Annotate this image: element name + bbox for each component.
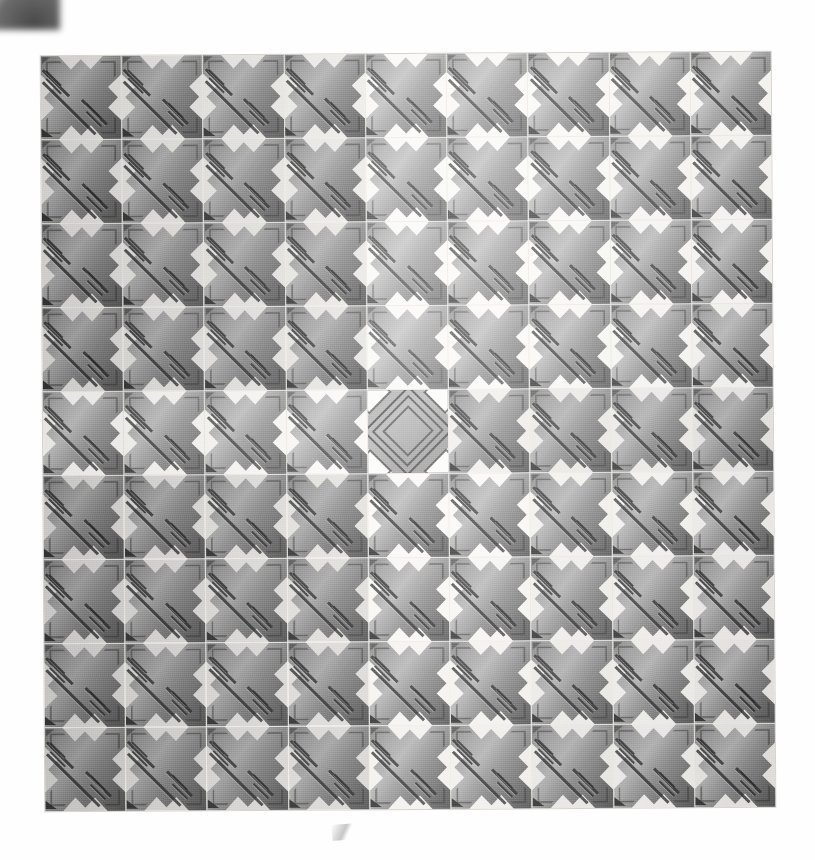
paver-tile	[448, 221, 529, 304]
paver-tile	[692, 304, 773, 387]
paver-tile	[693, 472, 774, 555]
paver-tile	[450, 557, 531, 640]
scan-page-background	[0, 0, 815, 860]
paver-tile	[206, 559, 287, 642]
paver-tile	[369, 558, 450, 641]
paver-tile	[45, 728, 126, 811]
paver-tile	[367, 306, 448, 389]
paver-tile	[287, 558, 368, 641]
scan-bottom-smudge-artifact	[331, 823, 358, 841]
paver-tile	[370, 726, 451, 809]
paver-tile	[42, 224, 123, 307]
paver-tile	[694, 556, 775, 639]
paver-tile	[368, 390, 449, 473]
paver-tile	[532, 641, 613, 724]
paver-tile	[368, 474, 449, 557]
paver-tile	[447, 137, 528, 220]
paver-tile	[44, 644, 125, 727]
paver-tile	[124, 475, 205, 558]
paver-tile	[284, 54, 365, 137]
paver-tile	[531, 557, 612, 640]
paver-tile	[451, 725, 532, 808]
paver-tile	[613, 724, 694, 807]
paver-tile	[206, 475, 287, 558]
paver-tile	[43, 392, 124, 475]
paver-tile	[367, 222, 448, 305]
paver-tile	[529, 221, 610, 304]
paver-tile	[124, 391, 205, 474]
paver-tile	[207, 643, 288, 726]
paver-tile	[449, 473, 530, 556]
paver-tile	[529, 137, 610, 220]
paver-tile	[287, 474, 368, 557]
paver-tile	[286, 390, 367, 473]
paver-tile	[610, 220, 691, 303]
paver-tile	[611, 388, 692, 471]
paver-tile	[204, 139, 285, 222]
paver-tile	[613, 640, 694, 723]
paver-tile	[612, 556, 693, 639]
paver-tile	[205, 391, 286, 474]
paver-tile	[450, 641, 531, 724]
paver-tile	[41, 140, 122, 223]
paver-tile	[126, 727, 207, 810]
paver-tile	[448, 305, 529, 388]
paver-tile	[44, 560, 125, 643]
scan-corner-smudge-artifact	[0, 0, 60, 30]
paver-tile	[694, 640, 775, 723]
paver-tile	[610, 136, 691, 219]
paver-tile	[123, 307, 204, 390]
paver-tile	[41, 56, 122, 139]
paver-tile	[449, 389, 530, 472]
paver-tile	[530, 305, 611, 388]
paver-tile	[692, 220, 773, 303]
paver-tile	[366, 54, 447, 137]
paver-tile	[42, 308, 123, 391]
paver-slab-grid	[41, 52, 776, 811]
paver-tile	[531, 473, 612, 556]
paver-tile	[691, 136, 772, 219]
paver-tile	[530, 389, 611, 472]
paver-tile	[203, 55, 284, 138]
paver-tile	[204, 223, 285, 306]
paver-tile	[289, 726, 370, 809]
paver-tile	[528, 53, 609, 136]
paver-tile	[532, 725, 613, 808]
paver-tile	[207, 727, 288, 810]
paver-tile	[205, 307, 286, 390]
paver-tile	[609, 52, 690, 135]
paver-tile	[447, 53, 528, 136]
paver-tile	[122, 55, 203, 138]
paver-tile	[125, 559, 206, 642]
paver-tile	[123, 223, 204, 306]
paver-tile	[126, 643, 207, 726]
paver-tile	[612, 472, 693, 555]
paver-tile	[286, 306, 367, 389]
paver-tile	[695, 724, 776, 807]
paver-tile	[691, 52, 772, 135]
paver-tile	[288, 642, 369, 725]
paver-tile	[285, 138, 366, 221]
paver-tile	[43, 476, 124, 559]
paver-tile	[285, 222, 366, 305]
paver-tile	[369, 642, 450, 725]
paver-tile	[122, 139, 203, 222]
paver-tile	[611, 304, 692, 387]
paver-tile	[693, 388, 774, 471]
paver-tile	[366, 138, 447, 221]
